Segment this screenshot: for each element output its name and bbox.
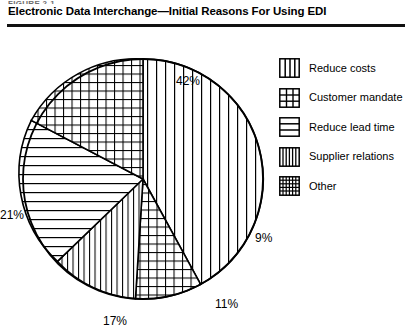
pie-label-other: 21% — [0, 208, 24, 222]
pie-chart: 42% 9% 11% 17% 21% — [12, 48, 274, 310]
legend-label: Reduce lead time — [309, 121, 395, 134]
legend-item-supplier-relations[interactable]: Supplier relations — [279, 147, 412, 167]
legend-label: Customer mandate — [309, 91, 403, 104]
legend-label: Reduce costs — [309, 62, 376, 75]
page-title: Electronic Data Interchange—Initial Reas… — [8, 4, 404, 18]
pie-chart-svg — [12, 48, 274, 310]
pie-label-customer-mandate: 9% — [255, 231, 272, 245]
legend-label: Supplier relations — [309, 150, 394, 163]
pie-label-reduce-lead-time: 11% — [215, 297, 238, 311]
pie-label-supplier-relations: 17% — [103, 314, 127, 326]
legend-swatch-grid-coarse-icon — [279, 88, 300, 108]
legend-item-reduce-costs[interactable]: Reduce costs — [279, 58, 412, 78]
legend-swatch-vertical-wide-icon — [279, 58, 300, 78]
legend-item-reduce-lead-time[interactable]: Reduce lead time — [279, 117, 412, 137]
legend: Reduce costs Customer mandate — [279, 58, 412, 206]
legend-swatch-vertical-fine-icon — [279, 147, 300, 167]
legend-item-customer-mandate[interactable]: Customer mandate — [279, 88, 412, 108]
legend-item-other[interactable]: Other — [279, 176, 412, 196]
title-divider — [7, 24, 405, 27]
legend-swatch-horizontal-icon — [279, 117, 300, 137]
pie-chart-figure: 42% 9% 11% 17% 21% Reduce costs — [0, 30, 412, 326]
pie-label-reduce-costs: 42% — [176, 74, 200, 88]
legend-label: Other — [309, 180, 337, 193]
legend-swatch-grid-fine-icon — [279, 176, 300, 196]
